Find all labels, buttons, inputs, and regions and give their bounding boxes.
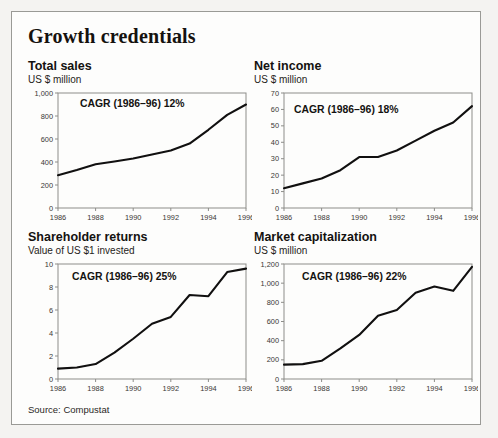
chart-panel-total-sales: Total sales US $ million 02004006008001,… (28, 60, 252, 229)
x-axis-tick-label: 1994 (426, 384, 442, 393)
y-axis-tick-label: 400 (41, 158, 53, 167)
chart-title: Market capitalization (254, 231, 478, 244)
y-axis-tick-label: 1,200 (261, 260, 280, 269)
x-axis-tick-label: 1996 (464, 213, 478, 222)
cagr-annotation: CAGR (1986–96) 18% (294, 104, 399, 115)
x-axis-tick-label: 1988 (87, 384, 103, 393)
chart-subtitle: US $ million (254, 74, 478, 86)
y-axis-tick-label: 400 (267, 336, 279, 345)
chart-panel-market-capitalization: Market capitalization US $ million 02004… (254, 231, 478, 400)
y-axis-tick-label: 50 (271, 121, 279, 130)
y-axis-tick-label: 6 (49, 306, 53, 315)
y-axis-tick-label: 10 (271, 187, 279, 196)
data-series-line (284, 106, 472, 188)
cagr-annotation: CAGR (1986–96) 22% (302, 271, 407, 282)
x-axis-tick-label: 1988 (87, 213, 103, 222)
y-axis-tick-label: 60 (271, 105, 279, 114)
chart-subtitle: Value of US $1 invested (28, 245, 252, 257)
x-axis-tick-label: 1992 (389, 384, 405, 393)
y-axis-tick-label: 20 (271, 171, 279, 180)
x-axis-tick-label: 1996 (464, 384, 478, 393)
x-axis-tick-label: 1992 (163, 384, 179, 393)
y-axis-tick-label: 0 (275, 204, 279, 213)
chart-subtitle: US $ million (28, 74, 252, 86)
y-axis-tick-label: 70 (271, 89, 279, 98)
cagr-annotation: CAGR (1986–96) 12% (80, 98, 185, 109)
x-axis-tick-label: 1988 (313, 213, 329, 222)
x-axis-tick-label: 1992 (163, 213, 179, 222)
x-axis-tick-label: 1990 (351, 213, 367, 222)
x-axis-tick-label: 1996 (238, 213, 252, 222)
x-axis-tick-label: 1986 (50, 384, 66, 393)
x-axis-tick-label: 1994 (200, 384, 216, 393)
y-axis-tick-label: 600 (267, 317, 279, 326)
source-note: Source: Compustat (28, 404, 109, 415)
x-axis-tick-label: 1990 (351, 384, 367, 393)
y-axis-tick-label: 0 (49, 375, 53, 384)
y-axis-tick-label: 800 (41, 112, 53, 121)
chart-title: Total sales (28, 60, 252, 73)
x-axis-tick-label: 1990 (125, 384, 141, 393)
y-axis-tick-label: 1,000 (35, 89, 54, 98)
x-axis-tick-label: 1992 (389, 213, 405, 222)
y-axis-tick-label: 8 (49, 283, 53, 292)
y-axis-tick-label: 200 (267, 355, 279, 364)
y-axis-tick-label: 0 (275, 375, 279, 384)
chart-title: Shareholder returns (28, 231, 252, 244)
data-series-line (58, 269, 246, 369)
data-series-line (58, 105, 246, 176)
chart-panel-net-income: Net income US $ million 0102030405060701… (254, 60, 478, 229)
chart-grid: Total sales US $ million 02004006008001,… (28, 60, 468, 400)
x-axis-tick-label: 1986 (276, 384, 292, 393)
x-axis-tick-label: 1994 (426, 213, 442, 222)
y-axis-tick-label: 40 (271, 138, 279, 147)
chart-panel-shareholder-returns: Shareholder returns Value of US $1 inves… (28, 231, 252, 400)
figure-panel: Growth credentials Total sales US $ mill… (11, 11, 481, 425)
y-axis-tick-label: 10 (45, 260, 53, 269)
page-title: Growth credentials (28, 25, 480, 48)
y-axis-tick-label: 30 (271, 154, 279, 163)
x-axis-tick-label: 1990 (125, 213, 141, 222)
y-axis-tick-label: 0 (49, 204, 53, 213)
chart-title: Net income (254, 60, 478, 73)
x-axis-tick-label: 1988 (313, 384, 329, 393)
y-axis-tick-label: 800 (267, 298, 279, 307)
x-axis-tick-label: 1986 (276, 213, 292, 222)
y-axis-tick-label: 600 (41, 135, 53, 144)
y-axis-tick-label: 200 (41, 181, 53, 190)
y-axis-tick-label: 4 (49, 329, 53, 338)
x-axis-tick-label: 1986 (50, 213, 66, 222)
x-axis-tick-label: 1996 (238, 384, 252, 393)
x-axis-tick-label: 1994 (200, 213, 216, 222)
y-axis-tick-label: 1,000 (261, 279, 280, 288)
cagr-annotation: CAGR (1986–96) 25% (72, 271, 177, 282)
y-axis-tick-label: 2 (49, 352, 53, 361)
chart-subtitle: US $ million (254, 245, 478, 257)
